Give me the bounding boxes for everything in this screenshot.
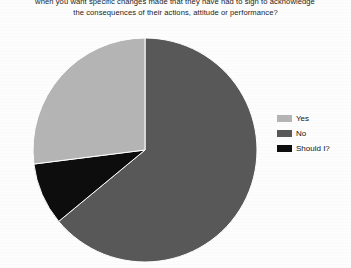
legend-item: Yes (277, 112, 349, 125)
legend-item-label: Yes (296, 114, 309, 123)
pie-slice (33, 38, 145, 164)
legend-swatch-icon (277, 145, 292, 152)
legend-swatch-icon (277, 130, 292, 137)
legend-item-label: Should I? (296, 144, 330, 153)
pie-slice-group (33, 38, 257, 262)
legend-item: No (277, 127, 349, 140)
legend-item: Should I? (277, 142, 349, 155)
legend-item-label: No (296, 129, 306, 138)
chart-legend: Yes No Should I? (277, 112, 349, 157)
pie-chart: Yes No Should I? (0, 0, 351, 268)
legend-swatch-icon (277, 115, 292, 122)
